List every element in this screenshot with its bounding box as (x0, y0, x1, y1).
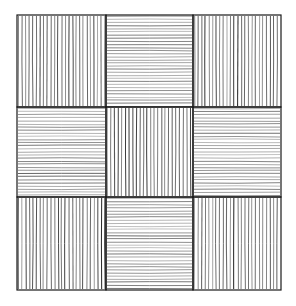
cell-border (106, 107, 193, 197)
hatch-cell (195, 16, 278, 106)
hatch-cell (107, 198, 192, 289)
hatch-cell (18, 198, 105, 289)
hatch-cell (107, 108, 191, 196)
cell-border (193, 197, 281, 290)
hatched-checkerboard (0, 0, 296, 306)
hatch-cell (107, 16, 192, 107)
hatch-cells (18, 16, 280, 289)
hatch-cell (18, 108, 105, 195)
hatch-cell (194, 108, 280, 195)
cell-border (17, 15, 106, 107)
hatch-cell (194, 198, 277, 289)
cell-border (193, 15, 281, 107)
hatch-cell (18, 16, 105, 106)
